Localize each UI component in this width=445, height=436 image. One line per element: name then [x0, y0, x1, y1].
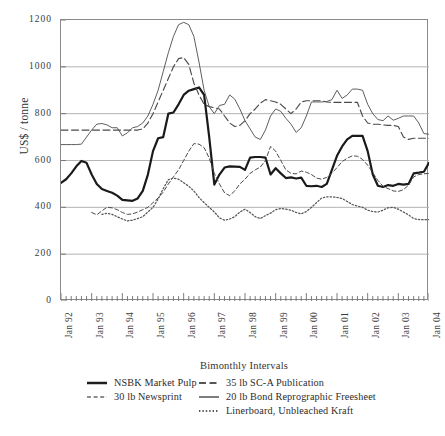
- legend-row: NSBK Market Pulp35 lb SC-A Publication: [86, 377, 426, 391]
- y-tick-label: 0: [6, 295, 52, 305]
- legend-line-swatch-icon: [198, 378, 220, 388]
- legend-label: 35 lb SC-A Publication: [226, 377, 324, 388]
- legend-line-swatch-icon: [86, 392, 108, 402]
- series-line: [102, 178, 429, 221]
- x-tick-label: Jan 00: [309, 312, 319, 338]
- chart-legend: NSBK Market Pulp35 lb SC-A Publication30…: [86, 377, 426, 419]
- y-tick-label: 1200: [6, 14, 52, 24]
- legend-item: 20 lb Bond Reprographic Freesheet: [198, 391, 426, 402]
- series-line: [61, 22, 429, 144]
- x-tick-label: Jan 98: [248, 312, 258, 338]
- y-axis-title: US$ / tonne: [18, 66, 30, 186]
- y-tick-label: 400: [6, 201, 52, 211]
- legend-line-swatch-icon: [198, 406, 220, 416]
- legend-label: NSBK Market Pulp: [114, 377, 197, 388]
- legend-row: Linerboard, Unbleached Kraft: [86, 405, 426, 419]
- x-tick-label: Jan 94: [125, 312, 135, 338]
- x-axis-title: Bimonthly Intervals: [60, 360, 428, 371]
- x-tick-label: Jan 01: [340, 312, 350, 338]
- legend-item: 35 lb SC-A Publication: [198, 377, 426, 388]
- price-trend-chart: 020040060080010001200 US$ / tonne Jan 92…: [0, 0, 445, 436]
- x-tick-label: Jan 99: [279, 312, 289, 338]
- x-axis-tick-labels: Jan 92Jan 93Jan 94Jan 95Jan 96Jan 97Jan …: [60, 312, 428, 362]
- plot-lines: [61, 20, 429, 301]
- series-line: [61, 87, 429, 200]
- legend-row: 30 lb Newsprint20 lb Bond Reprographic F…: [86, 391, 426, 405]
- legend-item: Linerboard, Unbleached Kraft: [198, 405, 426, 416]
- x-tick-label: Jan 93: [95, 312, 105, 338]
- legend-line-swatch-icon: [198, 392, 220, 402]
- x-tick-label: Jan 03: [401, 312, 411, 338]
- x-tick-label: Jan 96: [187, 312, 197, 338]
- legend-item: NSBK Market Pulp: [86, 377, 198, 388]
- plot-area: [60, 19, 428, 300]
- legend-label: Linerboard, Unbleached Kraft: [226, 405, 353, 416]
- legend-label: 20 lb Bond Reprographic Freesheet: [226, 391, 376, 402]
- legend-line-swatch-icon: [86, 378, 108, 388]
- series-line: [61, 57, 429, 139]
- series-line: [92, 144, 429, 215]
- x-tick-label: Jan 04: [432, 312, 442, 338]
- x-tick-label: Jan 95: [156, 312, 166, 338]
- x-tick-label: Jan 92: [64, 312, 74, 338]
- legend-item: 30 lb Newsprint: [86, 391, 198, 402]
- x-tick-label: Jan 97: [217, 312, 227, 338]
- y-tick-label: 200: [6, 248, 52, 258]
- legend-label: 30 lb Newsprint: [114, 391, 182, 402]
- x-tick-label: Jan 02: [371, 312, 381, 338]
